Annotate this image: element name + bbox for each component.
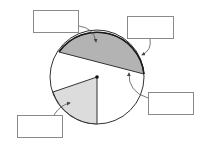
center-point [95, 75, 99, 79]
label-box-right[interactable] [148, 92, 194, 115]
label-box-top-right[interactable] [127, 16, 174, 39]
label-box-top-left[interactable] [33, 10, 79, 33]
label-box-bottom-left[interactable] [17, 115, 63, 138]
arrow-top-right [142, 39, 150, 55]
